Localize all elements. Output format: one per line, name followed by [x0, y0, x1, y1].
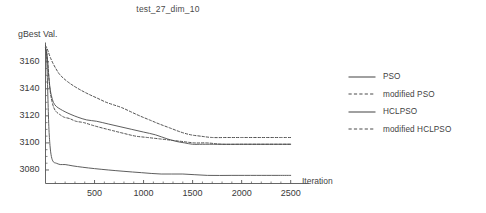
legend-label: HCLPSO	[383, 107, 417, 116]
axis-lines	[46, 43, 309, 184]
series-line-modified-hclpso	[46, 48, 291, 144]
legend-label: modified HCLPSO	[383, 125, 451, 134]
axis-tick-marks	[46, 55, 291, 184]
legend-item-pso[interactable]: PSO	[348, 68, 484, 86]
series-line-pso	[46, 48, 291, 144]
legend-swatch-solid-icon	[348, 73, 376, 81]
legend-item-hclpso[interactable]: HCLPSO	[348, 103, 484, 121]
legend-item-modified-hclpso[interactable]: modified HCLPSO	[348, 121, 484, 139]
series-line-modified-pso	[46, 46, 291, 138]
chart-figure: test_27_dim_10 gBest Val. Iteration 3080…	[0, 0, 486, 213]
legend-swatch-dashed-icon	[348, 90, 376, 98]
chart-legend: PSOmodified PSOHCLPSOmodified HCLPSO	[348, 68, 484, 138]
series-line-hclpso	[46, 48, 291, 175]
legend-label: modified PSO	[383, 90, 435, 99]
legend-swatch-dashed-icon	[348, 125, 376, 133]
legend-item-modified-pso[interactable]: modified PSO	[348, 86, 484, 104]
data-series-group	[46, 46, 291, 176]
legend-swatch-solid-icon	[348, 108, 376, 116]
legend-label: PSO	[383, 72, 401, 81]
